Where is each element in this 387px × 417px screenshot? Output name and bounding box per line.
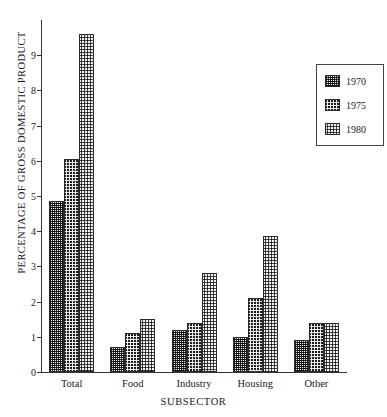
bar-group xyxy=(110,20,155,372)
x-tick-label: Total xyxy=(61,378,82,389)
legend-item: 1975 xyxy=(325,99,366,111)
bar-group xyxy=(49,20,94,372)
plot-area: 0123456789 TotalFoodIndustryHousingOther xyxy=(41,20,347,372)
legend: 197019751980 xyxy=(316,64,384,146)
bar-group xyxy=(233,20,278,372)
y-tick-label: 8 xyxy=(31,85,36,96)
y-tick-mark xyxy=(37,55,41,56)
legend-label: 1975 xyxy=(346,100,366,111)
legend-item: 1980 xyxy=(325,123,366,135)
bar xyxy=(140,319,155,372)
bar-chart: PERCENTAGE OF GROSS DOMESTIC PRODUCT 012… xyxy=(0,0,387,417)
x-tick-label: Housing xyxy=(237,378,273,389)
bar xyxy=(187,323,202,372)
bar xyxy=(79,34,94,372)
bar xyxy=(49,201,64,372)
y-tick-label: 1 xyxy=(31,331,36,342)
bar xyxy=(294,340,309,372)
y-tick-mark xyxy=(37,372,41,373)
y-tick-mark xyxy=(37,90,41,91)
bar xyxy=(172,330,187,372)
legend-swatch-icon xyxy=(325,75,340,87)
legend-label: 1970 xyxy=(346,76,366,87)
x-tick-label: Other xyxy=(304,378,328,389)
y-tick-label: 7 xyxy=(31,120,36,131)
x-axis-line xyxy=(41,372,347,373)
bar xyxy=(125,333,140,372)
y-tick-mark xyxy=(37,231,41,232)
x-tick-label: Food xyxy=(122,378,144,389)
y-tick-label: 5 xyxy=(31,191,36,202)
bar xyxy=(64,159,79,372)
legend-swatch-icon xyxy=(325,99,340,111)
bar xyxy=(233,337,248,372)
y-tick-label: 6 xyxy=(31,155,36,166)
legend-item: 1970 xyxy=(325,75,366,87)
bar-group xyxy=(172,20,217,372)
y-tick-label: 0 xyxy=(31,367,36,378)
legend-label: 1980 xyxy=(346,124,366,135)
bar xyxy=(324,323,339,372)
x-axis-title: SUBSECTOR xyxy=(0,396,387,407)
bar xyxy=(263,236,278,372)
y-tick-mark xyxy=(37,161,41,162)
y-tick-mark xyxy=(37,302,41,303)
x-tick-label: Industry xyxy=(177,378,212,389)
y-tick-mark xyxy=(37,196,41,197)
y-tick-label: 3 xyxy=(31,261,36,272)
y-tick-mark xyxy=(37,266,41,267)
legend-swatch-icon xyxy=(325,123,340,135)
y-tick-label: 2 xyxy=(31,296,36,307)
y-axis-line xyxy=(41,20,42,372)
y-axis-title: PERCENTAGE OF GROSS DOMESTIC PRODUCT xyxy=(16,28,27,278)
bar xyxy=(202,273,217,372)
bar xyxy=(248,298,263,372)
y-tick-label: 4 xyxy=(31,226,36,237)
bar xyxy=(110,347,125,372)
y-tick-mark xyxy=(37,126,41,127)
bar xyxy=(309,323,324,372)
y-tick-label: 9 xyxy=(31,50,36,61)
y-tick-mark xyxy=(37,337,41,338)
